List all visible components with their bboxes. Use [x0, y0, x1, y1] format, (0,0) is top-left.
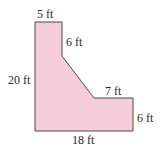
upper-right-dimension-label: 6 ft — [66, 36, 82, 48]
bottom-dimension-label: 18 ft — [72, 134, 94, 146]
step-dimension-label: 7 ft — [105, 85, 121, 97]
l-shaped-floor-plan-figure: 5 ft 6 ft 20 ft 7 ft 6 ft 18 ft — [0, 0, 160, 151]
floor-plan-polygon — [35, 22, 133, 131]
right-dimension-label: 6 ft — [137, 112, 153, 124]
top-dimension-label: 5 ft — [37, 8, 53, 20]
left-dimension-label: 20 ft — [8, 74, 30, 86]
